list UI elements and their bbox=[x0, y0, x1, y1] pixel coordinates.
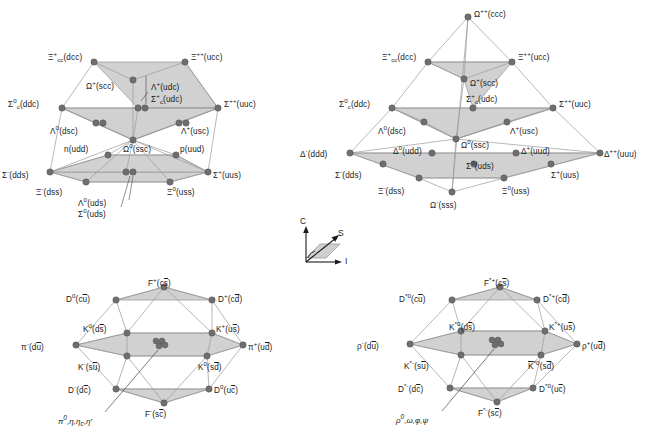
node-label-sigma-c-udc-2: Σ+c(udc) bbox=[466, 92, 497, 106]
node-label-sigma-c-udc: Σ+c(udc) bbox=[151, 92, 182, 106]
node-label-k0bar-sd: K0(sd) bbox=[198, 360, 222, 372]
node-label-sigma-c-ddc: Σ0c(ddc) bbox=[8, 97, 39, 111]
node-label-kstar0bar-sd: K*0(sd) bbox=[528, 359, 554, 371]
node-label-sigma-uuc-2: Σ++(uuc) bbox=[559, 97, 591, 109]
node-label-sigma-uus: Σ+(uus) bbox=[213, 168, 241, 180]
node-label-xi-cc-dcc-2: Ξ+cc(dcc) bbox=[382, 50, 416, 64]
node-label-kstar0-ds: K*0(ds) bbox=[449, 320, 475, 332]
node-label-f-plus-cs: F+(cs) bbox=[148, 276, 171, 288]
node-label-rho-plus-ud: ρ+(ud) bbox=[582, 339, 605, 351]
node-label-omega-ccc: Ω++(ccc) bbox=[474, 7, 506, 19]
node-label-omega-scc-2: Ω+(scc) bbox=[470, 76, 498, 88]
node-label-sigma-dds-2: Σ-(dds) bbox=[335, 168, 362, 180]
node-label-d0-cu: D0(cu) bbox=[66, 292, 90, 304]
node-label-delta-udd: Δ0(udd) bbox=[393, 144, 422, 156]
node-label-lambda-udc: Λ+(udc) bbox=[151, 80, 179, 92]
node-label-lambda-usc: Λ+(usc) bbox=[181, 124, 209, 136]
node-label-kstarplus-us: K*+(us) bbox=[549, 320, 575, 332]
node-label-sigma-uus-2: Σ+(uus) bbox=[551, 168, 579, 180]
node-label-lambda-dsc: Λ0(dsc) bbox=[50, 124, 78, 136]
node-label-delta-uuu: Δ++(uuu) bbox=[604, 147, 637, 159]
node-label-sigma-uds-2: Σ0(uds) bbox=[466, 159, 494, 171]
node-label-kminus-su: K-(su) bbox=[78, 360, 100, 372]
node-label-xi-dss-2: Ξ-(dss) bbox=[378, 184, 404, 196]
node-label-sigma-dds: Σ-(dds) bbox=[2, 168, 29, 180]
node-label-dstarminus-dc: D*-(dc) bbox=[398, 382, 423, 394]
node-label-k0-ds: K0(ds) bbox=[83, 322, 107, 334]
axis-label-c: C bbox=[300, 216, 306, 226]
node-label-pi-minus-du: π-(du) bbox=[21, 340, 44, 352]
axis-label-s: S bbox=[338, 228, 344, 238]
node-label-neutron-udd: n(udd) bbox=[64, 145, 88, 154]
node-label-fstar-plus-cs: F*+(cs) bbox=[484, 276, 509, 288]
node-label-delta-uud: Δ+(uud) bbox=[521, 144, 550, 156]
node-label-dstarplus-cd: D*+(cd) bbox=[543, 292, 570, 304]
node-label-pi-plus-ud: π+(ud) bbox=[248, 340, 272, 352]
node-label-lambda-usc-2: Λ+(usc) bbox=[510, 124, 538, 136]
node-label-sigma-c-ddc-2: Σ0c(ddc) bbox=[339, 97, 370, 111]
node-label-dstar0-cu: D*0(cu) bbox=[399, 292, 426, 304]
node-label-dplus-cd: D+(cd) bbox=[218, 292, 242, 304]
node-label-lambda-dsc-2: Λ0(dsc) bbox=[378, 124, 406, 136]
node-label-kplus-us: K+(us) bbox=[216, 322, 240, 334]
node-label-xi-dss: Ξ-(dss) bbox=[36, 185, 62, 197]
annotation-pseudoscalar-neutrals: π0,η,ηc,η′ bbox=[58, 414, 92, 427]
node-label-xi-cc-dcc: Ξ+cc(dcc) bbox=[48, 50, 82, 64]
annotation-vector-neutrals: ρ0,ω,φ,ψ bbox=[396, 413, 428, 425]
node-label-f-minus-sc: F-(sc) bbox=[145, 407, 166, 419]
node-label-rho-minus-du: ρ-(du) bbox=[357, 339, 379, 351]
node-label-delta-ddd: Δ-(ddd) bbox=[300, 147, 327, 159]
node-label-xi-ucc: Ξ++(ucc) bbox=[191, 50, 223, 62]
node-label-sigma-uds: Σ0(uds) bbox=[78, 207, 106, 219]
node-label-proton-uud: p(uud) bbox=[180, 145, 204, 154]
node-label-sigma-uuc: Σ++(uuc) bbox=[224, 97, 256, 109]
node-label-xi-uss: Ξ0(uss) bbox=[167, 185, 195, 197]
node-label-omega-scc: Ω+(scc) bbox=[86, 79, 114, 91]
node-label-xi-ucc-2: Ξ++(ucc) bbox=[518, 50, 550, 62]
node-label-fstar-minus-sc: F*-(sc) bbox=[478, 406, 502, 418]
node-label-omega-ssc: Ω0(ssc) bbox=[123, 142, 151, 154]
node-label-omega-sss: Ω-(sss) bbox=[430, 198, 457, 210]
node-label-xi-uss-2: Ξ0(uss) bbox=[502, 184, 530, 196]
node-label-dminus-dc: D-(dc) bbox=[68, 383, 91, 395]
node-label-omega-ssc-2: Ω0(ssc) bbox=[461, 138, 489, 150]
node-label-d0bar-uc: D0(uc) bbox=[214, 383, 238, 395]
node-label-dstar0bar-uc: D*0(uc) bbox=[539, 382, 566, 394]
node-label-kstarminus-su: K*-(su) bbox=[404, 359, 429, 371]
